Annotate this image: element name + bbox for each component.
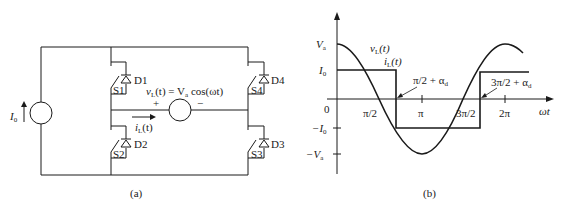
label-d3: D3	[271, 138, 285, 150]
diode-icon	[259, 140, 269, 147]
tick-pi: π	[418, 107, 424, 119]
caption-b: (b)	[423, 187, 436, 200]
label-s2: S2	[113, 148, 125, 160]
diode-icon	[121, 76, 131, 83]
tick-neg-va: −Va	[306, 148, 324, 162]
label-vl: vL(t)	[370, 42, 390, 56]
label-s4: S4	[251, 84, 263, 96]
x-axis-label: ωt	[539, 105, 551, 117]
label-load-current: iL(t)	[135, 121, 153, 135]
label-s3: S3	[251, 148, 263, 160]
tick-neg-i0: −I0	[312, 122, 327, 136]
figure: D1 S1 D2 S2 D3 S3 D4 S4 I0 vL(t) = Va co…	[0, 0, 568, 207]
waveform-chart: Va I0 −I0 −Va 0 π/2 π 3π/2 2π ωt vL(t) i…	[306, 12, 554, 200]
tick-2pi: 2π	[499, 107, 511, 119]
tick-3pi-half: 3π/2	[456, 107, 476, 119]
label-il: iL(t)	[384, 55, 402, 69]
label-d4: D4	[271, 74, 285, 86]
diode-icon	[259, 76, 269, 83]
ac-voltage-source	[169, 99, 191, 121]
tick-i0: I0	[318, 64, 327, 78]
source-arrowhead-icon	[21, 101, 27, 107]
il-arrowhead-icon	[150, 114, 156, 120]
annotation-3pi-half-alpha: 3π/2 + αd	[491, 76, 532, 90]
current-source	[30, 102, 52, 124]
label-source-current: I0	[9, 110, 18, 124]
tick-va: Va	[316, 38, 327, 52]
tick-zero: 0	[324, 103, 330, 115]
circuit-diagram	[24, 47, 248, 175]
tick-pi-half: π/2	[363, 107, 377, 119]
annotation-arrowhead-1-icon	[397, 93, 403, 98]
label-plus: +	[153, 97, 159, 109]
label-d2: D2	[134, 138, 147, 150]
diode-icon	[121, 140, 131, 147]
label-s1: S1	[113, 84, 125, 96]
caption-a: (a)	[130, 187, 143, 200]
annotation-arrowhead-2-icon	[481, 93, 487, 98]
y-axis-arrow-icon	[334, 12, 340, 20]
annotation-pi-half-alpha: π/2 + αd	[413, 74, 449, 88]
x-axis-arrow-icon	[546, 96, 554, 102]
label-minus: −	[197, 97, 203, 109]
